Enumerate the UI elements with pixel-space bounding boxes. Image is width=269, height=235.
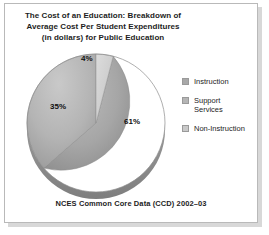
pie-chart-svg xyxy=(18,47,178,199)
legend-label-instruction: Instruction xyxy=(194,77,229,86)
pie-label-instruction: 61% xyxy=(124,117,140,126)
legend-label-instruction-line-1: Instruction xyxy=(194,77,229,86)
pie-label-support-services: 35% xyxy=(50,102,66,111)
legend-label-non-instruction-line-1: Non-Instruction xyxy=(194,124,245,133)
legend-item-instruction: Instruction xyxy=(182,77,258,86)
chart-title-line-2: Average Cost Per Student Expenditures xyxy=(10,21,196,32)
legend-item-support-services: Support Services xyxy=(182,96,258,114)
legend-label-support-services: Support Services xyxy=(194,96,223,114)
legend-swatch-support-services-icon xyxy=(182,97,189,104)
pie-chart: 61% 35% 4% xyxy=(18,47,178,199)
legend-swatch-non-instruction-icon xyxy=(182,125,189,132)
legend-item-non-instruction: Non-Instruction xyxy=(182,124,258,133)
chart-title-line-1: The Cost of an Education: Breakdown of xyxy=(10,10,196,21)
chart-figure: The Cost of an Education: Breakdown of A… xyxy=(0,0,269,235)
chart-legend: Instruction Support Services Non-Instruc… xyxy=(182,77,258,143)
legend-swatch-instruction-icon xyxy=(182,78,189,85)
chart-source-note: NCES Common Core Data (CCD) 2002–03 xyxy=(4,199,258,208)
chart-title: The Cost of an Education: Breakdown of A… xyxy=(10,10,196,44)
legend-label-support-services-line-2: Services xyxy=(194,105,223,114)
figure-content: The Cost of an Education: Breakdown of A… xyxy=(4,3,258,223)
pie-label-non-instruction: 4% xyxy=(81,54,93,63)
legend-label-non-instruction: Non-Instruction xyxy=(194,124,245,133)
legend-label-support-services-line-1: Support xyxy=(194,96,223,105)
chart-title-line-3: (in dollars) for Public Education xyxy=(10,32,196,43)
